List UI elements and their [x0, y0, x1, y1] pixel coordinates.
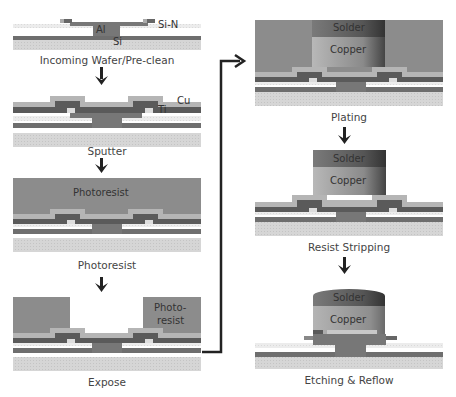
label-solder-reflow: Solder: [333, 292, 365, 303]
caption-photoresist: Photoresist: [13, 259, 201, 271]
stage-sputter: [13, 96, 201, 147]
label-solder-stripping: Solder: [333, 153, 365, 164]
caption-incoming-wafer: Incoming Wafer/Pre-clean: [13, 54, 201, 66]
connector-arrow: [202, 55, 244, 352]
caption-sputter: Sputter: [13, 145, 201, 157]
label-photoresist-layer: Photoresist: [73, 187, 129, 198]
flow-arrow-1: [95, 67, 108, 85]
label-si-n: Si-N: [158, 19, 178, 30]
caption-plating: Plating: [255, 111, 443, 123]
caption-etching-reflow: Etching & Reflow: [255, 374, 443, 386]
label-al: Al: [96, 24, 106, 35]
flow-arrow-3: [95, 277, 108, 292]
label-solder-plating: Solder: [333, 22, 365, 33]
label-photo: Photo-: [154, 302, 186, 313]
label-cu: Cu: [177, 95, 190, 106]
caption-expose: Expose: [13, 376, 201, 388]
label-copper-plating: Copper: [330, 44, 366, 55]
flow-arrow-5: [338, 257, 351, 274]
caption-resist-stripping: Resist Stripping: [255, 241, 443, 253]
flow-arrow-2: [95, 158, 108, 173]
label-copper-reflow: Copper: [330, 314, 366, 325]
label-resist: resist: [157, 315, 184, 326]
label-si: Si: [113, 36, 122, 47]
label-copper-stripping: Copper: [330, 175, 366, 186]
flow-arrow-4: [338, 127, 351, 144]
label-ti: Ti: [158, 104, 167, 115]
